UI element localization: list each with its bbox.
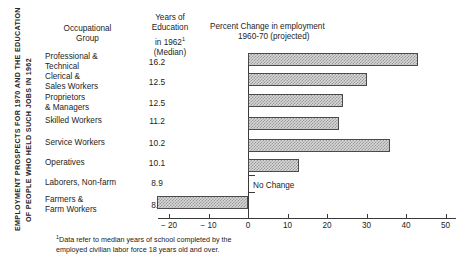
no-change-tick-2 bbox=[249, 192, 255, 193]
bar-6 bbox=[248, 159, 299, 172]
x-tick-mark bbox=[169, 214, 170, 218]
x-tick-label: 50 bbox=[431, 221, 461, 230]
bar-1 bbox=[248, 53, 418, 66]
bar-8 bbox=[157, 196, 248, 209]
x-tick-label: 20 bbox=[312, 221, 342, 230]
x-tick-mark bbox=[367, 214, 368, 218]
x-tick-label: − 20 bbox=[154, 221, 184, 230]
x-tick-mark bbox=[209, 214, 210, 218]
footnote-line-1: Data refer to median years of school com… bbox=[59, 235, 232, 244]
bar-2 bbox=[248, 73, 367, 86]
x-tick-label: 10 bbox=[273, 221, 303, 230]
x-tick-mark bbox=[446, 214, 447, 218]
footnote: 1Data refer to median years of school co… bbox=[56, 232, 396, 255]
x-tick-mark bbox=[406, 214, 407, 218]
x-tick-label: 30 bbox=[352, 221, 382, 230]
bar-chart-plot: No Change bbox=[0, 0, 473, 230]
bar-5 bbox=[248, 139, 390, 152]
x-tick-mark bbox=[248, 214, 249, 218]
x-tick-mark bbox=[288, 214, 289, 218]
x-tick-label: 40 bbox=[391, 221, 421, 230]
chart-page: EMPLOYMENT PROSPECTS FOR 1970 AND THE ED… bbox=[0, 0, 473, 265]
no-change-tick-1 bbox=[249, 175, 255, 176]
no-change-label: No Change bbox=[253, 181, 294, 190]
x-axis-line bbox=[158, 218, 456, 219]
bar-4 bbox=[248, 117, 339, 130]
x-tick-label: 0 bbox=[233, 221, 263, 230]
bar-3 bbox=[248, 94, 343, 107]
x-tick-mark bbox=[327, 214, 328, 218]
x-tick-label: − 10 bbox=[194, 221, 224, 230]
footnote-line-2: employed civilian labor force 18 years o… bbox=[56, 245, 219, 254]
